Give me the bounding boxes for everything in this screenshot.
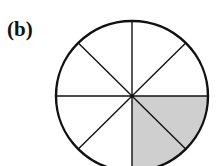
fraction-circle — [0, 0, 221, 166]
center-point — [130, 94, 133, 97]
